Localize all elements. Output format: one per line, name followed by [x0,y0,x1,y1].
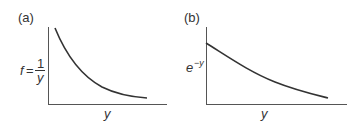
panel-a-y-label: f = 1 y [20,56,45,85]
ylabel-e: e [186,60,193,75]
ylabel-f: f [20,63,25,78]
panel-a-curve [55,28,147,98]
ylabel-exp: −y [194,58,204,68]
panel-a: (a) y f = 1 y [18,10,167,121]
panel-b-label: (b) [184,10,200,25]
panel-b-curve [206,43,328,98]
panel-a-x-label: y [103,106,112,121]
panel-b-y-label: e −y [186,58,204,75]
ylabel-eq: = [26,63,34,78]
panel-b: (b) y e −y [184,10,347,121]
figure: (a) y f = 1 y (b) y e −y [0,0,361,127]
ylabel-den: y [36,70,45,85]
panel-a-label: (a) [18,10,34,25]
panel-b-x-label: y [260,106,269,121]
ylabel-num: 1 [37,56,44,71]
